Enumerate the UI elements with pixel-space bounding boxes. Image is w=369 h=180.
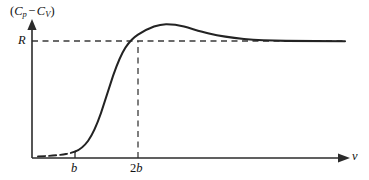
y-label-operator: − [27,4,37,18]
curve-cp-minus-cv [76,24,346,151]
x-tick-label-2b: 2b [130,162,143,175]
x-tick-label-b: b [71,162,77,175]
curve-low-v-dashed-segment [38,151,76,156]
y-axis-label: (Cp−CV) [10,5,55,19]
y-label-cp-symbol: C [14,4,22,18]
x-axis-label: v [352,150,358,163]
y-axis-arrow-icon [27,19,36,30]
y-label-cv-symbol: C [37,4,45,18]
x-axis-arrow-icon [338,153,350,162]
figure-container: (Cp−CV) R b 2b v [0,0,369,180]
plot-canvas [0,0,369,180]
y-tick-label-r: R [18,34,26,47]
y-label-close-paren: ) [50,4,54,18]
x-tick-2b-symbol: b [136,161,142,175]
